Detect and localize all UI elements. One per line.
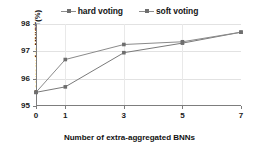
x-axis-tick (124, 106, 125, 109)
y-axis-title-holder: Accuracy for MNIST(%) (0, 24, 14, 106)
x-tick-label: 5 (172, 112, 192, 120)
data-point-marker (122, 43, 126, 47)
legend-entry-hard-voting[interactable]: hard voting (61, 6, 123, 16)
y-tick-label: 98 (8, 20, 30, 28)
series-layer (36, 24, 241, 106)
legend-line-marker-icon (139, 7, 154, 16)
legend-line-marker-icon (61, 7, 76, 16)
x-axis-tick (182, 106, 183, 109)
x-axis-tick (36, 106, 37, 109)
data-point-marker (239, 30, 243, 34)
x-axis-tick (65, 106, 66, 109)
y-tick-label: 96 (8, 75, 30, 83)
series-line-hard-voting (36, 32, 241, 92)
x-axis-title: Number of extra-aggregated BNNs (0, 133, 259, 142)
x-tick-label: 0 (26, 112, 46, 120)
y-tick-label: 95 (8, 102, 30, 110)
x-tick-label: 7 (231, 112, 251, 120)
chart-root: hard voting soft voting Accuracy for MNI… (0, 0, 259, 144)
legend-label-soft-voting: soft voting (156, 6, 198, 16)
data-point-marker (122, 51, 126, 55)
data-point-marker (63, 58, 67, 62)
data-point-marker (181, 40, 185, 44)
y-tick-label: 97 (8, 47, 30, 55)
data-point-marker (63, 85, 67, 89)
series-line-soft-voting (36, 32, 241, 92)
legend-entry-soft-voting[interactable]: soft voting (139, 6, 198, 16)
x-axis-tick (241, 106, 242, 109)
plot-area (36, 24, 241, 106)
legend-label-hard-voting: hard voting (78, 6, 123, 16)
x-tick-label: 3 (114, 112, 134, 120)
x-tick-label: 1 (55, 112, 75, 120)
data-point-marker (34, 91, 38, 95)
